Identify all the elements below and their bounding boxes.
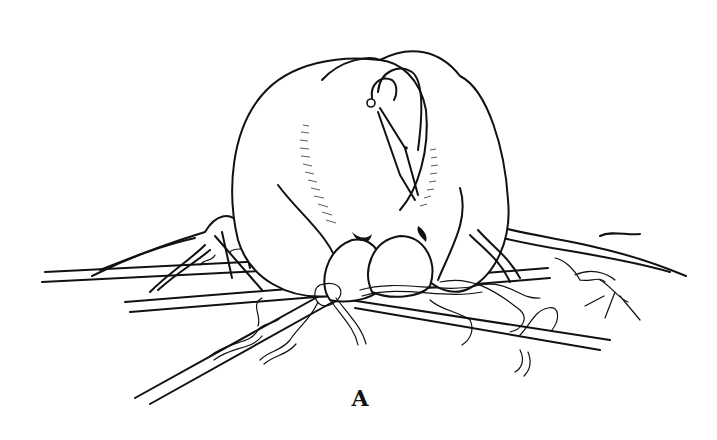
figure-label: A: [345, 385, 375, 411]
bird-on-nest-illustration: [0, 0, 717, 440]
